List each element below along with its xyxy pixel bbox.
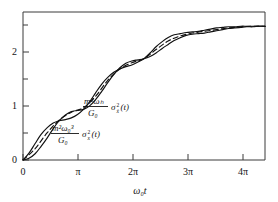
annotation-lower-sigma-subscript: x (87, 135, 91, 141)
x-tick-label-3pi: 3π (183, 166, 193, 177)
x-tick-label-4pi: 4π (238, 166, 248, 177)
annotation-lower-numerator: m²ω₀³ (52, 123, 74, 133)
annotation-upper-sigma-subscript: ẋ (116, 108, 120, 114)
x-axis-tick-labels: 0 π 2π 3π 4π (21, 166, 249, 177)
annotation-upper-denominator: G₀ (88, 108, 98, 118)
figure-container: 0 1 2 0 π 2π 3π 4π ω₀t (0, 0, 278, 202)
annotation-lower-sigma-superscript: 2 (88, 129, 91, 135)
x-axis-ticks (23, 154, 243, 160)
annotation-lower-sigma: σ (82, 129, 87, 139)
plot-canvas: 0 1 2 0 π 2π 3π 4π ω₀t (0, 0, 278, 202)
y-axis-tick-labels: 0 1 2 (12, 46, 17, 165)
x-tick-label-0: 0 (21, 166, 26, 177)
y-tick-label-1: 1 (12, 100, 17, 111)
annotation-upper-argument: (t) (121, 102, 130, 112)
y-axis-ticks (23, 25, 29, 160)
annotation-lower-denominator: G₀ (58, 135, 68, 145)
annotation-lower: m²ω₀³ G₀ σ x 2 (t) (51, 123, 100, 145)
x-tick-label-pi: π (75, 166, 80, 177)
x-tick-label-2pi: 2π (128, 166, 138, 177)
annotation-upper-numerator: m²ωₕ (84, 96, 104, 106)
y-tick-label-0: 0 (12, 154, 17, 165)
annotation-lower-argument: (t) (92, 129, 101, 139)
annotation-upper: m²ωₕ G₀ σ ẋ 2 (t) (83, 96, 129, 118)
x-axis-title: ω₀t (133, 185, 147, 196)
annotation-upper-sigma: σ (111, 102, 116, 112)
annotation-upper-sigma-superscript: 2 (117, 102, 120, 108)
y-tick-label-2: 2 (12, 46, 17, 57)
